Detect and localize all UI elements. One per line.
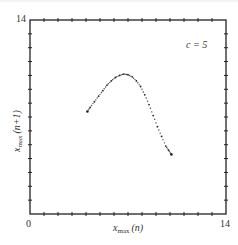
data-point: [165, 145, 167, 147]
data-point: [97, 97, 98, 98]
data-point: [125, 74, 126, 75]
data-point: [140, 86, 142, 88]
data-point: [164, 142, 165, 143]
data-point: [89, 106, 91, 108]
data-point: [160, 132, 161, 133]
y-tick-label-14: 14: [16, 13, 26, 24]
data-point: [104, 88, 105, 89]
data-point: [141, 89, 142, 90]
parameter-annotation: c = 5: [186, 39, 207, 50]
y-axis-label-main: x: [11, 148, 22, 152]
data-point: [147, 101, 148, 102]
y-axis-label: xmax (n+1): [11, 110, 24, 152]
data-point: [152, 115, 154, 117]
x-tick-label-0: 0: [26, 218, 31, 229]
data-point: [137, 82, 138, 83]
data-point: [130, 75, 131, 76]
data-point: [162, 139, 163, 140]
data-point: [106, 84, 108, 86]
data-point: [101, 92, 102, 93]
data-point: [134, 79, 135, 80]
chart-canvas: [0, 0, 238, 245]
y-axis-label-sub: max: [16, 135, 24, 147]
data-point: [102, 90, 104, 92]
x-axis-label-sub: max: [117, 227, 129, 235]
data-point: [126, 74, 127, 75]
data-point: [150, 108, 151, 109]
data-point: [157, 126, 159, 128]
data-point: [167, 148, 168, 149]
data-point: [105, 86, 106, 87]
data-point: [110, 80, 112, 82]
data-point: [113, 78, 114, 79]
data-point: [168, 149, 170, 151]
data-point: [127, 74, 129, 76]
x-axis-label: xmax (n): [113, 222, 143, 235]
x-axis-label-arg: (n): [132, 222, 144, 233]
data-point: [161, 136, 163, 138]
y-axis-label-arg: (n+1): [11, 110, 22, 133]
data-point: [143, 91, 144, 92]
data-point: [91, 105, 92, 106]
data-point: [98, 95, 100, 97]
data-point: [144, 94, 146, 96]
data-point: [131, 76, 133, 78]
data-point: [112, 79, 113, 80]
data-point: [94, 101, 96, 103]
data-point: [146, 97, 147, 98]
data-point: [88, 109, 89, 110]
data-point: [95, 99, 96, 100]
data-point: [118, 75, 119, 76]
data-point: [170, 153, 173, 156]
data-points: [86, 73, 173, 156]
data-point: [109, 82, 110, 83]
x-tick-label-14: 14: [220, 218, 230, 229]
data-point: [116, 76, 117, 77]
data-point: [123, 73, 125, 75]
data-point: [139, 84, 140, 85]
data-point: [155, 122, 156, 123]
data-point: [169, 151, 170, 152]
data-point: [99, 94, 100, 95]
data-point: [154, 119, 155, 120]
data-point: [120, 74, 121, 75]
data-point: [133, 78, 134, 79]
data-point: [151, 111, 152, 112]
data-point: [92, 103, 93, 104]
data-point: [122, 74, 123, 75]
data-point: [89, 108, 90, 109]
data-point: [119, 75, 121, 77]
data-point: [115, 77, 117, 79]
data-point: [158, 129, 159, 130]
data-point: [166, 147, 167, 148]
data-point: [129, 75, 130, 76]
data-point: [148, 104, 150, 106]
data-point: [108, 83, 109, 84]
data-point: [136, 80, 138, 82]
